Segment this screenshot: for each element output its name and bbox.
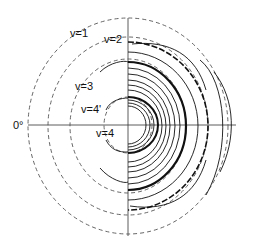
ring-label-v1: v=1 — [70, 28, 88, 39]
ring-label-v4-prime: v=4' — [81, 104, 101, 115]
contour-plot — [0, 0, 256, 246]
ring-label-v3: v=3 — [75, 81, 93, 92]
angle-label-zero: 0° — [13, 120, 24, 131]
polar-contour-diagram: v=1 v=2 v=3 v=4' v=4 0° — [0, 0, 256, 246]
ring-label-v2: v=2 — [104, 34, 122, 45]
ring-label-v4: v=4 — [96, 128, 114, 139]
